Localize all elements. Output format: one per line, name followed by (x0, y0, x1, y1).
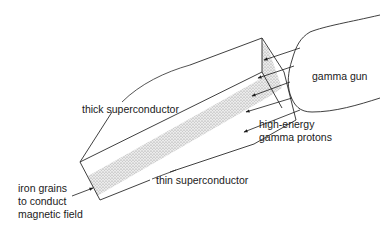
iron-grains-label-line2: to conduct (18, 195, 66, 207)
gamma-gun-label: gamma gun (312, 70, 367, 82)
thick-superconductor-leader (122, 65, 190, 102)
thick-superconductor-label: thick superconductor (82, 103, 179, 115)
thin-superconductor-label: thin superconductor (156, 174, 248, 186)
iron-grains-label-line1: iron grains (18, 182, 67, 194)
high-energy-label-line1: high-energy (259, 118, 314, 130)
iron-grains-arrow (72, 188, 93, 196)
iron-grains-label-line3: magnetic field (18, 208, 83, 220)
gamma-gun-outline (288, 15, 380, 112)
high-energy-label-line2: gamma protons (259, 131, 332, 143)
